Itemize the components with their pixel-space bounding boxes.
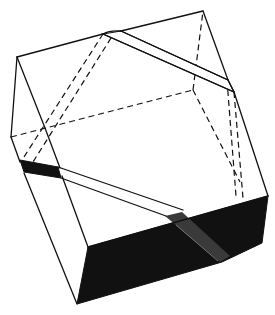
shaded-bottom-face bbox=[77, 196, 268, 304]
cube-drawing bbox=[0, 0, 275, 315]
cube-band-diagram: Cube with band wrapped diagonally around… bbox=[0, 0, 275, 315]
band bbox=[20, 31, 234, 216]
